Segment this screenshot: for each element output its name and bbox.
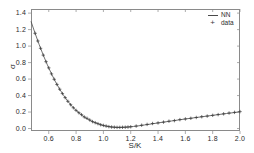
x-tick-label: 1.8 (202, 135, 224, 142)
data-point-marker (206, 114, 209, 117)
data-point-marker (173, 119, 176, 122)
y-tick-label: 1.0 (8, 42, 26, 49)
data-point-marker (50, 72, 53, 75)
y-tick-label: 0.2 (8, 108, 26, 115)
plus-marker-icon: + (206, 19, 219, 27)
data-point-marker (53, 78, 56, 81)
data-point-marker (42, 53, 45, 56)
legend-item-data: + data (206, 19, 248, 27)
data-point-marker (36, 39, 39, 42)
y-axis-label: σ (8, 59, 17, 75)
y-tick-label: 0.0 (8, 125, 26, 132)
data-point-marker (129, 125, 132, 128)
data-point-marker (47, 66, 50, 69)
x-tick-label: 1.0 (92, 135, 114, 142)
data-point-marker (200, 115, 203, 118)
data-point-marker (44, 60, 47, 63)
data-point-marker (55, 83, 58, 86)
data-point-marker (178, 118, 181, 121)
data-point-marker (233, 111, 236, 114)
data-point-marker (184, 117, 187, 120)
x-tick-label: 1.6 (174, 135, 196, 142)
data-point-marker (33, 32, 36, 35)
data-point-marker (162, 120, 165, 123)
figure-container: 0.00.20.40.60.81.01.21.4 0.60.81.01.21.4… (0, 0, 254, 153)
data-point-marker (102, 124, 105, 127)
axis-ticks (28, 9, 240, 134)
y-tick-label: 1.2 (8, 26, 26, 33)
y-tick-label: 0.6 (8, 75, 26, 82)
data-point-marker (189, 117, 192, 120)
data-point-marker (134, 124, 137, 127)
data-point-marker (151, 122, 154, 125)
chart-legend: NN + data (206, 11, 248, 27)
data-point-marker (107, 125, 110, 128)
x-tick-label: 1.4 (147, 135, 169, 142)
data-point-marker (39, 47, 42, 50)
data-point-marker (222, 112, 225, 115)
y-tick-label: 0.4 (8, 92, 26, 99)
series-data-markers (33, 32, 241, 129)
data-point-marker (211, 114, 214, 117)
x-tick-label: 0.8 (65, 135, 87, 142)
series-nn-line (31, 21, 240, 127)
data-point-marker (145, 123, 148, 126)
x-axis-label: S/K (120, 141, 150, 150)
legend-label-data: data (219, 19, 234, 27)
data-point-marker (156, 121, 159, 124)
data-point-marker (238, 110, 241, 113)
data-point-marker (227, 111, 230, 114)
legend-label-nn: NN (219, 11, 230, 19)
x-tick-label: 0.6 (38, 135, 60, 142)
data-point-marker (104, 124, 107, 127)
data-point-marker (216, 113, 219, 116)
data-point-marker (140, 124, 143, 127)
data-point-marker (195, 116, 198, 119)
data-point-marker (167, 119, 170, 122)
y-tick-label: 1.4 (8, 9, 26, 16)
x-tick-label: 2.0 (229, 135, 251, 142)
